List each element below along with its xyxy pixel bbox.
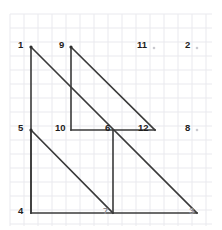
- vertex-dot-8: [196, 129, 199, 132]
- geometry-figure: 191125106128473: [0, 0, 222, 230]
- vertex-label-3: 3: [189, 205, 194, 216]
- vertex-dot-1: [29, 45, 32, 48]
- vertex-dot-2: [196, 47, 199, 50]
- vertex-label-11: 11: [137, 39, 148, 50]
- grid-background: [10, 14, 212, 226]
- vertex-label-4: 4: [18, 205, 24, 216]
- vertex-label-2: 2: [185, 39, 190, 50]
- vertex-label-6: 6: [105, 122, 110, 133]
- vertex-dot-5: [29, 128, 32, 131]
- vertex-label-1: 1: [18, 39, 24, 50]
- vertex-label-9: 9: [59, 39, 64, 50]
- vertex-label-12: 12: [138, 122, 149, 133]
- vertex-dot-9: [69, 45, 72, 48]
- geometry-canvas: 191125106128473: [0, 0, 222, 230]
- vertex-labels: 191125106128473: [18, 39, 194, 216]
- segment-v5-v7: [31, 130, 113, 213]
- vertex-label-7: 7: [103, 205, 108, 216]
- vertex-label-5: 5: [18, 122, 24, 133]
- vertex-label-10: 10: [55, 122, 66, 133]
- vertex-label-8: 8: [185, 122, 190, 133]
- segment-v9-v12: [71, 47, 155, 130]
- vertex-dot-11: [153, 47, 156, 50]
